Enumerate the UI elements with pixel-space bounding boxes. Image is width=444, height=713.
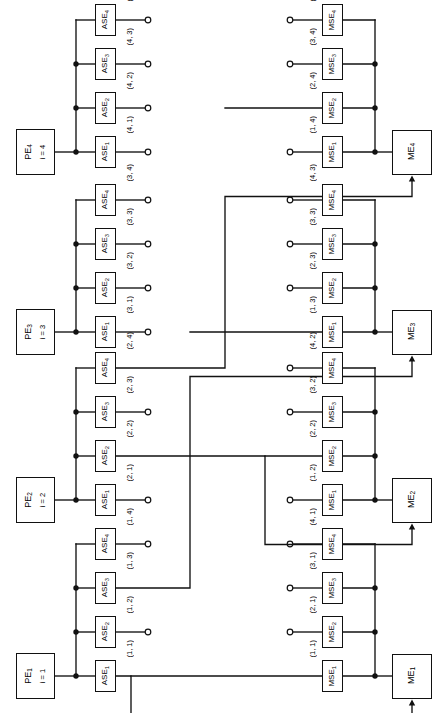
ase-box-pe2-2[interactable]: ASE2 xyxy=(95,440,116,472)
me-label: ME1 xyxy=(407,667,416,684)
ase-box-pe1-1[interactable]: ASE1 xyxy=(95,660,116,692)
pe-label: PE4 xyxy=(23,144,33,160)
ase-label: ASE1 xyxy=(101,322,110,341)
ase-box-pe4-3[interactable]: ASE3 xyxy=(95,48,116,80)
ase-label: ASE2 xyxy=(101,98,110,117)
ase-box-pe4-1[interactable]: ASE1 xyxy=(95,136,116,168)
pe-label: PE3 xyxy=(23,324,33,340)
mse-box-me4-1[interactable]: MSE1 xyxy=(322,136,343,168)
mse-box-me2-1[interactable]: MSE1 xyxy=(322,484,343,516)
mse-label: MSE3 xyxy=(328,234,337,255)
ase-label: ASE2 xyxy=(101,278,110,297)
ase-box-pe3-3[interactable]: ASE3 xyxy=(95,228,116,260)
mse-label: MSE2 xyxy=(328,446,337,467)
mse-port-label: (3, 3) xyxy=(308,208,317,226)
mse-box-me2-3[interactable]: MSE3 xyxy=(322,396,343,428)
mse-port-label: (1, 3) xyxy=(308,296,317,314)
me-label: ME3 xyxy=(407,323,416,340)
ase-label: ASE2 xyxy=(101,446,110,465)
ase-port-label: (3, 2) xyxy=(125,252,134,270)
mse-box-me1-4[interactable]: MSE4 xyxy=(322,528,343,560)
mse-box-me1-1[interactable]: MSE1 xyxy=(322,660,343,692)
ase-port-label: (4, 1) xyxy=(125,116,134,134)
me-box-me1[interactable]: ME1 xyxy=(392,654,432,699)
mse-label: MSE2 xyxy=(328,278,337,299)
ase-label: ASE2 xyxy=(101,622,110,641)
ase-label: ASE1 xyxy=(101,666,110,685)
ase-port-label: (2, 4) xyxy=(125,332,134,350)
mse-port-label: (3, 2) xyxy=(308,376,317,394)
mse-port-label: (2, 1) xyxy=(308,596,317,614)
mse-port-label: (2, 3) xyxy=(308,252,317,270)
me-box-me3[interactable]: ME3 xyxy=(392,310,432,355)
mse-box-me3-3[interactable]: MSE3 xyxy=(322,228,343,260)
pe-box-pe1[interactable]: PE1i = 1 xyxy=(16,653,55,699)
ase-label: ASE4 xyxy=(101,358,110,377)
ase-box-pe2-1[interactable]: ASE1 xyxy=(95,484,116,516)
ase-port-label: (4, 2) xyxy=(125,72,134,90)
mse-port-label: (3, 1) xyxy=(308,552,317,570)
ase-label: ASE1 xyxy=(101,490,110,509)
ase-box-pe1-4[interactable]: ASE4 xyxy=(95,528,116,560)
ase-box-pe3-4[interactable]: ASE4 xyxy=(95,184,116,216)
mse-label: MSE2 xyxy=(328,622,337,643)
pe-box-pe2[interactable]: PE2i = 2 xyxy=(16,477,55,523)
ase-port-label: (1, 3) xyxy=(125,552,134,570)
ase-port-label: (3, 1) xyxy=(125,296,134,314)
me-box-me2[interactable]: ME2 xyxy=(392,478,432,523)
ase-label: ASE3 xyxy=(101,234,110,253)
ase-box-pe4-2[interactable]: ASE2 xyxy=(95,92,116,124)
ase-port-label: (2, 1) xyxy=(125,464,134,482)
ase-box-pe1-3[interactable]: ASE3 xyxy=(95,572,116,604)
pe-box-pe4[interactable]: PE4i = 4 xyxy=(16,129,55,175)
mse-label: MSE1 xyxy=(328,490,337,511)
mse-box-me3-4[interactable]: MSE4 xyxy=(322,184,343,216)
ase-label: ASE1 xyxy=(101,142,110,161)
pe-label: PE2 xyxy=(23,492,33,508)
ase-label: ASE4 xyxy=(101,190,110,209)
mse-label: MSE3 xyxy=(328,578,337,599)
ase-label: ASE3 xyxy=(101,578,110,597)
mse-box-me4-4[interactable]: MSE4 xyxy=(322,4,343,36)
ase-port-label: (1, 1) xyxy=(125,640,134,658)
me-box-me4[interactable]: ME4 xyxy=(392,130,432,175)
mse-port-label: (1, 2) xyxy=(308,464,317,482)
mse-box-me4-3[interactable]: MSE3 xyxy=(322,48,343,80)
ase-port-label: (3, 3) xyxy=(125,208,134,226)
ase-label: ASE4 xyxy=(101,10,110,29)
pe-box-inner: PE3i = 3 xyxy=(17,310,54,354)
pe-box-inner: PE1i = 1 xyxy=(17,654,54,698)
mse-label: MSE4 xyxy=(328,190,337,211)
ase-box-pe1-2[interactable]: ASE2 xyxy=(95,616,116,648)
mse-box-me1-3[interactable]: MSE3 xyxy=(322,572,343,604)
me-label: ME4 xyxy=(407,143,416,160)
mse-port-label: (4, 4) xyxy=(308,0,317,2)
ase-port-label: (2, 3) xyxy=(125,376,134,394)
ase-box-pe3-2[interactable]: ASE2 xyxy=(95,272,116,304)
mse-box-me1-2[interactable]: MSE2 xyxy=(322,616,343,648)
mse-box-me3-1[interactable]: MSE1 xyxy=(322,316,343,348)
ase-box-pe2-3[interactable]: ASE3 xyxy=(95,396,116,428)
ase-box-pe4-4[interactable]: ASE4 xyxy=(95,4,116,36)
pe-label: PE1 xyxy=(23,668,33,684)
ase-label: ASE4 xyxy=(101,534,110,553)
mse-port-label: (3, 4) xyxy=(308,28,317,46)
mse-box-me2-2[interactable]: MSE2 xyxy=(322,440,343,472)
mse-label: MSE3 xyxy=(328,54,337,75)
ase-port-label: (4, 4) xyxy=(125,0,134,2)
ase-port-label: (1, 2) xyxy=(125,596,134,614)
mse-port-label: (1, 1) xyxy=(308,640,317,658)
wire-layer xyxy=(0,0,444,713)
ase-box-pe2-4[interactable]: ASE4 xyxy=(95,352,116,384)
pe-box-inner: PE4i = 4 xyxy=(17,130,54,174)
mse-port-label: (1, 4) xyxy=(308,116,317,134)
mse-port-label: (4, 3) xyxy=(308,164,317,182)
ase-box-pe3-1[interactable]: ASE1 xyxy=(95,316,116,348)
ase-port-label: (4, 3) xyxy=(125,28,134,46)
mse-box-me3-2[interactable]: MSE2 xyxy=(322,272,343,304)
mse-label: MSE4 xyxy=(328,534,337,555)
pe-index-label: i = 3 xyxy=(38,325,47,339)
mse-box-me2-4[interactable]: MSE4 xyxy=(322,352,343,384)
pe-box-pe3[interactable]: PE3i = 3 xyxy=(16,309,55,355)
mse-box-me4-2[interactable]: MSE2 xyxy=(322,92,343,124)
